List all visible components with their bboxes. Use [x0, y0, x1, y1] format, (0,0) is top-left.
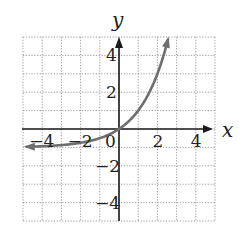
x-axis-arrow-icon	[203, 125, 213, 133]
exponential-graph: −4−202442−2−4 x y	[0, 0, 250, 238]
x-tick-label: 2	[152, 131, 163, 151]
curve-arrow-up-icon	[162, 37, 170, 49]
y-axis-label: y	[111, 8, 124, 32]
y-tick-label: −2	[95, 156, 120, 176]
x-tick-label: 4	[191, 131, 202, 151]
y-tick-label: 4	[106, 45, 117, 65]
y-tick-label: 2	[106, 82, 117, 102]
x-tick-label: −2	[68, 131, 93, 151]
x-axis-label: x	[222, 118, 233, 142]
x-tick-label: −4	[29, 131, 54, 151]
x-tick-label: 0	[105, 131, 116, 151]
y-tick-label: −4	[95, 193, 120, 213]
